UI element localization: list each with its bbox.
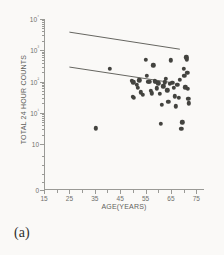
x-minor-tick bbox=[82, 190, 83, 193]
upper-boundary-line bbox=[69, 32, 179, 49]
x-tick-label: 45 bbox=[117, 195, 124, 202]
x-tick-mark bbox=[44, 190, 45, 194]
y-tick-label: 10 bbox=[32, 141, 39, 148]
figure-panel: 10⁴10³10²10¹100 15253545556575 TOTAL 24 … bbox=[0, 0, 224, 255]
x-tick-label: 75 bbox=[193, 195, 200, 202]
x-minor-tick bbox=[184, 190, 185, 193]
x-tick-label: 15 bbox=[40, 195, 47, 202]
x-tick-label: 65 bbox=[167, 195, 174, 202]
x-tick-mark bbox=[196, 190, 197, 194]
x-tick-label: 25 bbox=[66, 195, 73, 202]
x-minor-tick bbox=[107, 190, 108, 193]
scatter-plot: 10⁴10³10²10¹100 15253545556575 bbox=[44, 19, 204, 190]
y-tick-label: 10² bbox=[30, 78, 39, 85]
x-tick-label: 35 bbox=[91, 195, 98, 202]
regression-lines bbox=[44, 19, 204, 190]
x-tick-label: 55 bbox=[142, 195, 149, 202]
x-tick-mark bbox=[171, 190, 172, 194]
x-tick-mark bbox=[120, 190, 121, 194]
y-tick-label: 0 bbox=[35, 187, 39, 194]
y-axis-title: TOTAL 24 HOUR COUNTS bbox=[20, 35, 27, 165]
x-minor-tick bbox=[133, 190, 134, 193]
y-tick-label: 10¹ bbox=[30, 109, 39, 116]
x-tick-mark bbox=[95, 190, 96, 194]
x-axis-title: AGE(YEARS) bbox=[44, 203, 204, 210]
x-minor-tick bbox=[158, 190, 159, 193]
y-tick-label: 10⁴ bbox=[30, 16, 39, 23]
x-tick-mark bbox=[69, 190, 70, 194]
y-tick-label: 10³ bbox=[30, 47, 39, 54]
x-minor-tick bbox=[57, 190, 58, 193]
x-tick-mark bbox=[146, 190, 147, 194]
figure-caption: (a) bbox=[14, 225, 30, 241]
